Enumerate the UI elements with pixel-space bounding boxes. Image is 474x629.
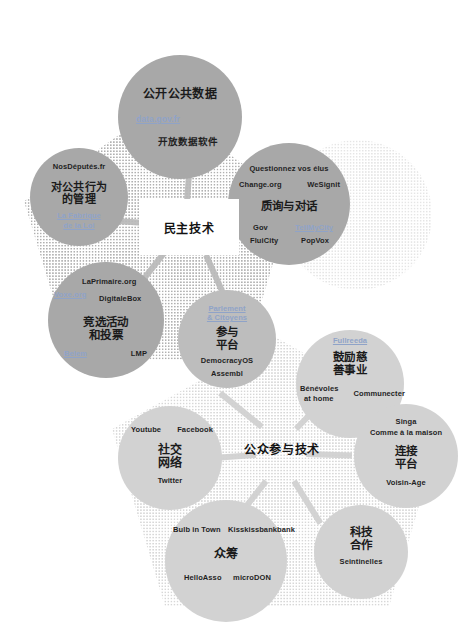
connect-title-line2: 平台 xyxy=(395,458,418,471)
diagram-canvas: 公开公共数据 data.gov.fr 开放数据软件 NosDéputés.fr … xyxy=(0,0,474,629)
node-participation-platform[interactable]: Parlement & Citoyens 参与 平台 DemocracyOS A… xyxy=(178,290,276,388)
public-action-link-fabrique-line2[interactable]: de la Loi xyxy=(63,221,94,230)
public-action-nosdeputes: NosDéputés.fr xyxy=(53,162,106,171)
consult-link-tellmycity[interactable]: TellMyCity xyxy=(295,223,333,232)
platform-title-line2: 平台 xyxy=(216,339,239,352)
campaign-link-voxe[interactable]: Voxe.org xyxy=(54,290,86,299)
campaign-laprimaire: LaPrimaire.org xyxy=(82,277,136,286)
platform-link-parlement-line1[interactable]: Parlement xyxy=(208,304,245,313)
consult-questionnez: Questionnez vos élus xyxy=(249,164,328,173)
social-twitter: Twitter xyxy=(158,476,183,485)
charity-title-line1: 鼓励慈 xyxy=(333,351,367,364)
crowdfunding-bulb-in-town: Bulb in Town xyxy=(173,525,221,534)
consult-fluicity: FluiCity xyxy=(250,236,278,245)
public-action-title-line1: 对公共行为 xyxy=(51,181,108,193)
hub-public-participation-tech: 公众参与技术 xyxy=(222,428,342,468)
tech-coop-title-line1: 科技 xyxy=(350,526,373,539)
crowdfunding-title: 众筹 xyxy=(214,548,239,561)
crowdfunding-kisskissbankbank: Kisskissbankbank xyxy=(228,525,295,534)
campaign-title-line1: 竞选活动 xyxy=(83,316,129,329)
node-connection-platform[interactable]: Singa Comme à la maison 连接 平台 Voisin-Age xyxy=(354,404,458,508)
node-crowdfunding[interactable]: Bulb in Town Kisskissbankbank 众筹 HelloAs… xyxy=(165,500,287,622)
platform-title-line1: 参与 xyxy=(216,326,239,339)
public-action-link-fabrique-line1[interactable]: La Fabrique xyxy=(57,211,101,220)
crowdfunding-microdon: microDON xyxy=(233,573,271,582)
campaign-link-belem[interactable]: Belem xyxy=(64,349,87,358)
charity-communecter: Communecter xyxy=(353,389,405,398)
charity-benevoles-line2: at home xyxy=(304,394,333,403)
consult-gov: Gov xyxy=(253,223,268,232)
connect-voisin-age: Voisin-Age xyxy=(386,478,426,487)
campaign-lmp: LMP xyxy=(131,349,147,358)
hub-public-participation-tech-label: 公众参与技术 xyxy=(244,440,320,457)
hub-democratic-tech-label: 民主技术 xyxy=(164,219,214,236)
node-social-network[interactable]: Youtube Facebook 社交 网络 Twitter xyxy=(118,406,222,510)
connect-comme-a-la-maison: Comme à la maison xyxy=(370,428,442,437)
connect-title-line1: 连接 xyxy=(395,445,418,458)
consult-title: 质询与对话 xyxy=(261,200,318,213)
public-action-title-line2: 的管理 xyxy=(62,193,96,205)
platform-link-parlement-line2[interactable]: & Citoyens xyxy=(207,313,247,322)
consult-popvox: PopVox xyxy=(301,236,329,245)
consult-wesignit: WeSignit xyxy=(307,180,340,189)
node-tech-cooperation[interactable]: 科技 合作 Seintinelles xyxy=(314,505,408,599)
campaign-title-line2: 和投票 xyxy=(89,329,123,342)
platform-democracyos: DemocracyOS xyxy=(201,356,253,365)
campaign-digitalebox: DigitaleBox xyxy=(99,294,141,303)
social-title-line2: 网络 xyxy=(158,457,183,470)
consult-changeorg: Change.org xyxy=(239,180,282,189)
open-data-title: 公开公共数据 xyxy=(143,88,217,101)
hub-democratic-tech: 民主技术 xyxy=(139,199,239,255)
node-open-data[interactable]: 公开公共数据 data.gov.fr 开放数据软件 xyxy=(118,55,242,179)
social-facebook: Facebook xyxy=(177,425,213,434)
crowdfunding-helloasso: HelloAsso xyxy=(184,573,222,582)
open-data-software-label: 开放数据软件 xyxy=(158,134,219,148)
node-consultation[interactable]: Questionnez vos élus Change.org WeSignit… xyxy=(228,143,350,265)
open-data-link-datagov[interactable]: data.gov.fr xyxy=(136,114,180,124)
spoke-lower-to-platform xyxy=(218,391,264,430)
spoke-lower-to-tech-coop xyxy=(291,479,323,525)
tech-coop-seintinelles: Seintinelles xyxy=(340,557,383,566)
charity-benevoles-line1: Bénévoles xyxy=(300,384,338,393)
connect-singa: Singa xyxy=(396,417,417,426)
platform-assembl: Assembl xyxy=(211,369,243,378)
charity-title-line2: 善事业 xyxy=(333,364,367,377)
social-youtube: Youtube xyxy=(131,425,161,434)
node-public-action[interactable]: NosDéputés.fr 对公共行为 的管理 La Fabrique de l… xyxy=(30,148,128,246)
tech-coop-title-line2: 合作 xyxy=(350,539,373,552)
charity-link-fullreeda[interactable]: Fullreeda xyxy=(333,336,367,345)
node-campaign-voting[interactable]: LaPrimaire.org Voxe.org DigitaleBox 竞选活动… xyxy=(48,262,164,378)
